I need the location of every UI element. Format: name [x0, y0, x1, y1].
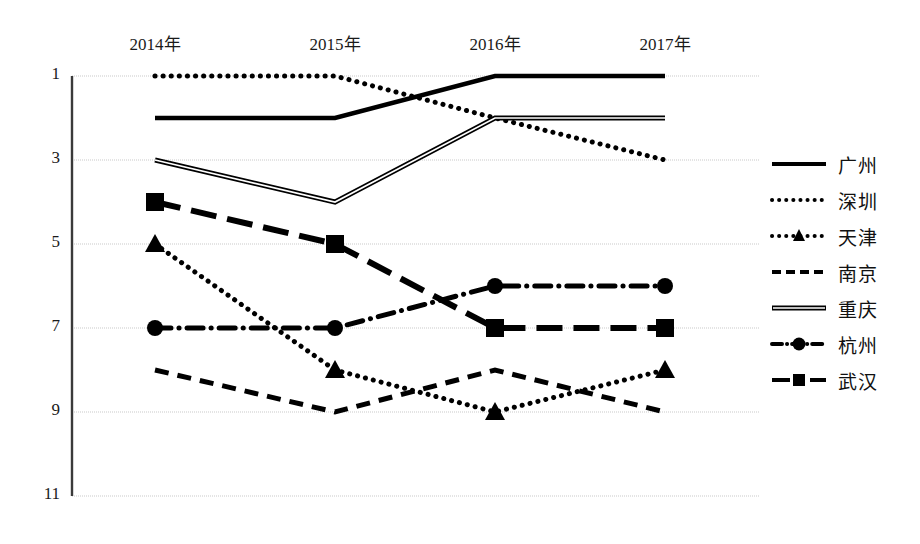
legend-key-double-line-icon — [770, 297, 828, 319]
y-axis-tick-label: 5 — [20, 232, 60, 252]
series-line — [155, 286, 665, 328]
y-axis-tick-label: 9 — [20, 400, 60, 420]
legend-label: 广州 — [838, 151, 878, 178]
legend-label: 天津 — [838, 223, 878, 250]
legend-key-dash-square-icon — [770, 369, 828, 391]
legend-key-dotted-icon — [770, 189, 828, 211]
legend-label: 南京 — [838, 259, 878, 286]
x-axis-tick-label: 2017年 — [620, 30, 710, 55]
rank-line-chart: 广州 深圳 天津 南京 重庆 — [0, 0, 920, 544]
legend-item-shenzhen[interactable]: 深圳 — [770, 182, 915, 218]
legend-key-dotted-triangle-icon — [770, 225, 828, 247]
data-point-marker — [657, 278, 673, 294]
data-point-marker — [485, 402, 505, 420]
x-axis-tick-label: 2016年 — [450, 30, 540, 55]
data-point-marker — [147, 320, 163, 336]
legend-label: 重庆 — [838, 295, 878, 322]
x-axis-tick-label: 2014年 — [110, 30, 200, 55]
data-point-marker — [486, 319, 504, 337]
data-point-marker — [655, 360, 675, 378]
data-point-marker — [487, 278, 503, 294]
y-axis-tick-label: 1 — [20, 64, 60, 84]
legend-item-nanjing[interactable]: 南京 — [770, 254, 915, 290]
data-point-marker — [327, 320, 343, 336]
legend-item-chongqing[interactable]: 重庆 — [770, 290, 915, 326]
legend-key-dashed-icon — [770, 261, 828, 283]
data-point-marker — [656, 319, 674, 337]
series-line — [155, 370, 665, 412]
chart-legend: 广州 深圳 天津 南京 重庆 — [770, 146, 915, 398]
data-point-marker — [145, 234, 165, 252]
y-axis-tick-label: 7 — [20, 316, 60, 336]
legend-item-tianjin[interactable]: 天津 — [770, 218, 915, 254]
data-point-marker — [326, 235, 344, 253]
legend-item-wuhan[interactable]: 武汉 — [770, 362, 915, 398]
x-axis-tick-label: 2015年 — [290, 30, 380, 55]
data-point-marker — [146, 193, 164, 211]
legend-key-dashdot-circle-icon — [770, 333, 828, 355]
series-南京 — [155, 370, 665, 412]
legend-label: 深圳 — [838, 187, 878, 214]
legend-item-hangzhou[interactable]: 杭州 — [770, 326, 915, 362]
legend-item-guangzhou[interactable]: 广州 — [770, 146, 915, 182]
legend-key-solid-icon — [770, 153, 828, 175]
series-武汉 — [146, 193, 674, 337]
y-axis-tick-label: 11 — [20, 484, 60, 504]
legend-label: 武汉 — [838, 367, 878, 394]
legend-label: 杭州 — [838, 331, 878, 358]
y-axis-tick-label: 3 — [20, 148, 60, 168]
